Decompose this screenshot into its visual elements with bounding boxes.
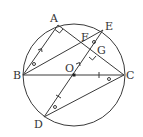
- segment-ba: [23, 25, 58, 75]
- geometry-diagram: A E F G B O C D: [0, 0, 143, 137]
- angle-mark-b: [33, 63, 36, 66]
- label-b: B: [13, 69, 21, 82]
- label-e: E: [105, 20, 113, 33]
- segment-be: [23, 30, 103, 75]
- angle-mark-e: [93, 41, 96, 44]
- label-d: D: [34, 118, 43, 131]
- right-angle-mark-g: [89, 56, 96, 60]
- label-o: O: [65, 62, 74, 75]
- label-a: A: [49, 12, 59, 25]
- label-c: C: [126, 69, 134, 82]
- label-g: G: [97, 44, 106, 57]
- angle-mark-c: [108, 78, 111, 81]
- segment-dc: [44, 75, 124, 117]
- label-f: F: [81, 31, 89, 44]
- right-angle-mark-a: [55, 29, 63, 33]
- angle-mark-d: [54, 106, 57, 109]
